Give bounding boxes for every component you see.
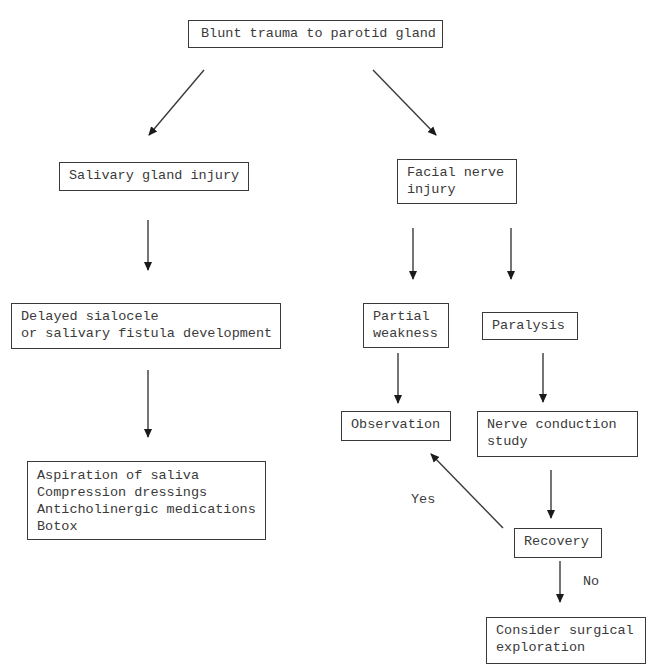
node-facial-nerve-injury: Facial nerve injury [397, 159, 517, 204]
flowchart-canvas: Blunt trauma to parotid gland Salivary g… [0, 0, 652, 669]
node-salivary-gland-injury: Salivary gland injury [59, 162, 249, 191]
node-consider-surgical-exploration: Consider surgical exploration [486, 617, 646, 664]
edge-label-no: No [583, 574, 599, 589]
node-paralysis: Paralysis [482, 312, 578, 340]
arrow-root-to-salivary [149, 70, 204, 135]
node-recovery: Recovery [514, 528, 602, 558]
arrow-recovery-to-observation [431, 454, 503, 528]
node-nerve-conduction-study: Nerve conduction study [477, 411, 638, 457]
node-delayed-sialocele: Delayed sialocele or salivary fistula de… [11, 303, 281, 349]
arrow-root-to-facial [373, 70, 436, 135]
node-observation: Observation [341, 411, 451, 441]
edge-label-yes: Yes [411, 492, 435, 507]
node-blunt-trauma: Blunt trauma to parotid gland [188, 20, 443, 48]
node-partial-weakness: Partial weakness [363, 303, 449, 348]
node-treatment-options: Aspiration of saliva Compression dressin… [27, 461, 266, 540]
